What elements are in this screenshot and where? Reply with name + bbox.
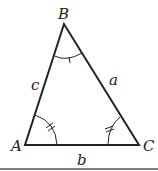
side-label-c: c <box>31 76 40 94</box>
angle-a-arc <box>35 115 57 145</box>
side-label-a: a <box>109 71 118 89</box>
vertex-label-b: B <box>57 5 69 23</box>
triangle-diagram: B A C c a b <box>0 0 158 171</box>
vertex-label-c: C <box>143 137 155 155</box>
triangle-abc <box>25 24 139 145</box>
vertex-label-a: A <box>9 137 22 155</box>
side-label-b: b <box>77 151 87 169</box>
angle-b-arc <box>55 53 83 58</box>
